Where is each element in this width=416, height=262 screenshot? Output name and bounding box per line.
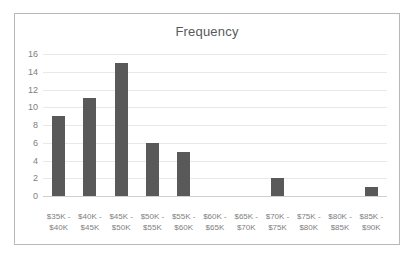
bar-slot bbox=[262, 54, 293, 196]
bar-slot bbox=[293, 54, 324, 196]
x-axis-tick-label: $45K -$50K bbox=[106, 211, 137, 234]
y-axis-tick-label: 6 bbox=[33, 138, 38, 147]
y-axis-tick-label: 16 bbox=[28, 50, 38, 59]
x-axis-tick-label: $60K -$65K bbox=[199, 211, 230, 234]
bar[interactable] bbox=[177, 152, 190, 196]
bar-series bbox=[43, 54, 387, 196]
bar[interactable] bbox=[365, 187, 378, 196]
y-axis-tick-label: 14 bbox=[28, 67, 38, 76]
bar-slot bbox=[199, 54, 230, 196]
chart-frame: Frequency 0246810121416 $35K -$40K$40K -… bbox=[14, 13, 400, 245]
x-axis-tick-label: $55K -$60K bbox=[168, 211, 199, 234]
x-axis-tick-label: $75K -$80K bbox=[293, 211, 324, 234]
bar-slot bbox=[324, 54, 355, 196]
bar-slot bbox=[106, 54, 137, 196]
x-axis-tick-label: $35K -$40K bbox=[43, 211, 74, 234]
x-axis-tick-label: $85K -$90K bbox=[356, 211, 387, 234]
bar-slot bbox=[231, 54, 262, 196]
x-axis-line bbox=[43, 196, 387, 197]
bar-slot bbox=[356, 54, 387, 196]
x-axis-tick-labels: $35K -$40K$40K -$45K$45K -$50K$50K -$55K… bbox=[43, 211, 387, 234]
bar-slot bbox=[74, 54, 105, 196]
y-axis-tick-label: 10 bbox=[28, 103, 38, 112]
bar-slot bbox=[168, 54, 199, 196]
bar[interactable] bbox=[83, 98, 96, 196]
bar-slot bbox=[43, 54, 74, 196]
x-axis-tick-label: $65K -$70K bbox=[231, 211, 262, 234]
plot-wrapper: 0246810121416 bbox=[43, 54, 387, 196]
chart-title: Frequency bbox=[15, 24, 399, 39]
x-axis-tick-label: $40K -$45K bbox=[74, 211, 105, 234]
x-axis-tick-label: $70K -$75K bbox=[262, 211, 293, 234]
bar[interactable] bbox=[271, 178, 284, 196]
x-axis-tick-label: $50K -$55K bbox=[137, 211, 168, 234]
bar[interactable] bbox=[146, 143, 159, 196]
bar-slot bbox=[137, 54, 168, 196]
y-axis-tick-label: 4 bbox=[33, 156, 38, 165]
y-axis-tick-label: 2 bbox=[33, 174, 38, 183]
x-axis-tick-label: $80K -$85K bbox=[324, 211, 355, 234]
y-axis-tick-label: 12 bbox=[28, 85, 38, 94]
bar[interactable] bbox=[115, 63, 128, 196]
y-axis-tick-label: 0 bbox=[33, 192, 38, 201]
bar[interactable] bbox=[52, 116, 65, 196]
y-axis-tick-label: 8 bbox=[33, 121, 38, 130]
